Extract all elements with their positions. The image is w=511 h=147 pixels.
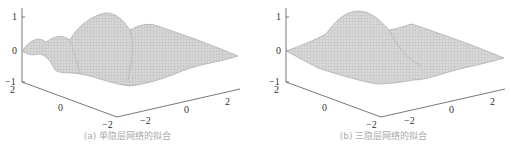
x-tick-2: 2 [10, 84, 15, 95]
x-tick-0: 0 [322, 102, 327, 113]
z-tick-0: 0 [276, 45, 281, 56]
caption-b: (b) 三隐层网络的拟合 [256, 129, 511, 142]
y-tick-2: 2 [490, 96, 495, 107]
surface-plot-b: 1 0 −1 2 0 −2 −2 0 2 [256, 0, 511, 147]
x-tick-2: 2 [274, 84, 279, 95]
surface-plot-a: 1 0 −1 2 0 −2 −2 0 2 [0, 0, 255, 147]
y-tick-neg2: −2 [404, 115, 415, 126]
z-tick-0: 0 [12, 45, 17, 56]
x-tick-0: 0 [58, 102, 63, 113]
y-tick-neg2: −2 [140, 115, 151, 126]
panel-a: 1 0 −1 2 0 −2 −2 0 2 (a) 单隐层网络的拟合 [0, 0, 255, 147]
panel-b: 1 0 −1 2 0 −2 −2 0 2 (b) 三隐层网络的拟合 [256, 0, 511, 147]
y-tick-0: 0 [184, 104, 189, 115]
mesh-surface-b [286, 11, 504, 84]
mesh-surface-a [22, 13, 238, 86]
y-tick-0: 0 [449, 104, 454, 115]
z-tick-1: 1 [276, 11, 281, 22]
caption-a: (a) 单隐层网络的拟合 [0, 129, 255, 142]
z-tick-1: 1 [12, 11, 17, 22]
y-tick-2: 2 [225, 96, 230, 107]
